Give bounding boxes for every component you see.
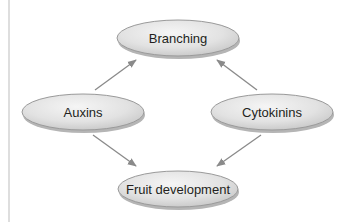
hormone-diagram: Branching Auxins Cytokinins Fruit develo…	[0, 0, 346, 222]
edge-auxins-fruit	[93, 135, 136, 166]
node-branching-label: Branching	[149, 31, 208, 46]
edge-cytokinins-branching	[217, 60, 257, 90]
node-auxins-label: Auxins	[63, 105, 102, 120]
edge-auxins-branching	[95, 60, 136, 90]
edge-cytokinins-fruit	[217, 135, 261, 166]
node-fruit-label: Fruit development	[126, 182, 230, 197]
node-cytokinins-label: Cytokinins	[242, 105, 302, 120]
